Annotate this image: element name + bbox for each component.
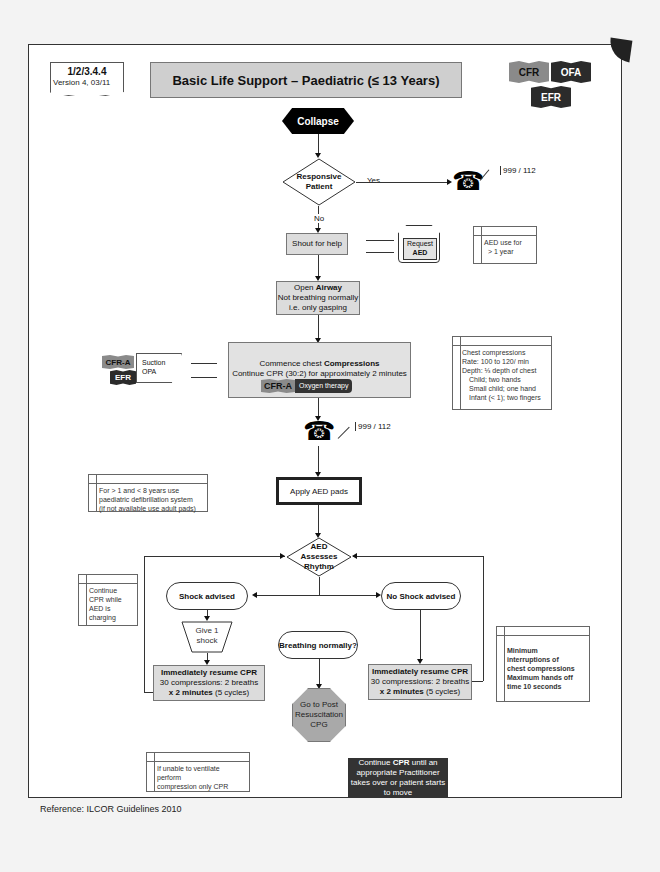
loop-connector-left bbox=[144, 556, 285, 557]
page-curl bbox=[608, 38, 633, 63]
step-text: (5 cycles) bbox=[424, 687, 460, 696]
decision-line: Rhythm bbox=[301, 562, 338, 572]
note-line: If unable to ventilate perform bbox=[157, 764, 245, 782]
connector bbox=[191, 377, 217, 378]
decision-line: AED bbox=[301, 542, 338, 552]
shock-advised-node: Shock advised bbox=[166, 582, 248, 610]
loop-connector-left bbox=[144, 556, 145, 693]
decision-line: Patient bbox=[297, 182, 342, 192]
yes-label: Yes bbox=[367, 176, 380, 185]
flag-cfr-a: CFR-A bbox=[261, 379, 295, 393]
decision-line: Assesses bbox=[301, 552, 338, 562]
step-text: shock bbox=[181, 636, 233, 646]
arrow-icon bbox=[252, 592, 257, 598]
collapse-node: Collapse bbox=[282, 108, 354, 134]
connector bbox=[318, 505, 319, 535]
connector bbox=[318, 134, 319, 154]
note-line: (if not available use adult pads) bbox=[99, 504, 203, 513]
note-text: takes over or patient starts bbox=[351, 778, 445, 788]
note-text: to move bbox=[351, 788, 445, 798]
step-text: Commence chest bbox=[259, 359, 323, 368]
note-line: Maximum hands off bbox=[507, 673, 585, 682]
request-aed-device: Request AED bbox=[398, 225, 440, 263]
step-text: i.e. only gasping bbox=[289, 303, 347, 313]
breathing-normally-decision: Breathing normally? bbox=[278, 631, 358, 659]
note-line: Depth: ⅓ depth of chest bbox=[462, 366, 547, 375]
note-line: Minimum bbox=[507, 646, 585, 655]
note-line: Rate: 100 to 120/ min bbox=[462, 357, 547, 366]
arrow-icon bbox=[352, 553, 357, 559]
connector bbox=[366, 252, 394, 253]
note-line: paediatric defibrillation system bbox=[99, 495, 203, 504]
emergency-number: 999 / 112 bbox=[355, 422, 391, 431]
note-line: AED is bbox=[89, 604, 133, 613]
connector bbox=[318, 446, 319, 474]
note-line: Child; two hands bbox=[462, 375, 547, 384]
oxygen-therapy-tag: CFR-A Oxygen therapy bbox=[261, 379, 352, 393]
ventilation-note: If unable to ventilate perform compressi… bbox=[146, 752, 250, 792]
responsive-patient-decision: ResponsivePatient bbox=[282, 158, 356, 206]
step-text-bold: Immediately resume CPR bbox=[372, 667, 468, 677]
decision-line: Responsive bbox=[297, 172, 342, 182]
note-line: time 10 seconds bbox=[507, 682, 585, 691]
step-text: Not breathing normally bbox=[278, 293, 358, 303]
connector bbox=[366, 240, 394, 241]
emergency-number: 999 / 112 bbox=[500, 166, 536, 175]
loop-connector-right bbox=[483, 556, 484, 681]
branch-connector bbox=[254, 595, 379, 596]
document-tag: 1/2/3.4.4 Version 4, 03/11 bbox=[50, 62, 124, 96]
request-line: AED bbox=[404, 248, 436, 257]
connector bbox=[319, 659, 320, 686]
connector bbox=[318, 398, 319, 418]
loop-connector-left bbox=[144, 692, 153, 693]
step-text-bold: Airway bbox=[316, 283, 342, 292]
note-line: Continue bbox=[89, 586, 133, 595]
continue-cpr-note: Continue CPR until an appropriate Practi… bbox=[348, 758, 448, 798]
aed-assesses-rhythm-decision: AED Assesses Rhythm bbox=[286, 537, 352, 577]
loop-connector-right bbox=[472, 681, 483, 682]
chest-compressions-step: Commence chest Compressions Continue CPR… bbox=[228, 342, 411, 398]
doc-code: 1/2/3.4.4 bbox=[51, 66, 123, 77]
apply-aed-pads-step: Apply AED pads bbox=[276, 477, 362, 505]
note-text: until an bbox=[410, 758, 438, 767]
connector bbox=[356, 182, 448, 183]
loop-connector-right bbox=[353, 556, 483, 557]
open-airway-step: Open Airway Not breathing normally i.e. … bbox=[276, 281, 360, 315]
step-text: CPG bbox=[295, 720, 343, 730]
charging-note: Continue CPR while AED is charging bbox=[78, 574, 138, 626]
flag-ofa: OFA bbox=[551, 61, 591, 83]
note-text: appropriate Practitioner bbox=[351, 768, 445, 778]
page-title: Basic Life Support – Paediatric (≤ 13 Ye… bbox=[150, 62, 462, 98]
request-line: Request bbox=[404, 239, 436, 248]
paediatric-pads-note: For > 1 and < 8 years use paediatric def… bbox=[88, 474, 208, 512]
connector bbox=[420, 610, 421, 661]
reference-text: Reference: ILCOR Guidelines 2010 bbox=[40, 804, 182, 814]
give-shock-step: Give 1 shock bbox=[181, 621, 233, 653]
step-text-bold: Immediately resume CPR bbox=[161, 668, 257, 678]
note-line: chest compressions bbox=[507, 664, 585, 673]
note-line: AED use for bbox=[484, 238, 532, 247]
suction-opa-item: CFR-A EFR Suction OPA bbox=[100, 353, 190, 389]
telephone-icon: ☎ bbox=[303, 418, 335, 444]
note-line: > 1 year bbox=[484, 247, 532, 256]
resume-cpr-right-step: Immediately resume CPR 30 compressions: … bbox=[368, 664, 472, 700]
shout-for-help-step: Shout for help bbox=[286, 233, 348, 255]
flag-cfr: CFR bbox=[509, 61, 549, 83]
step-text: 30 compressions: 2 breaths bbox=[160, 678, 258, 688]
no-shock-advised-node: No Shock advised bbox=[381, 582, 461, 610]
step-text-bold: Compressions bbox=[324, 359, 380, 368]
note-line: CPR while bbox=[89, 595, 133, 604]
step-text-bold: x 2 minutes bbox=[380, 687, 424, 696]
flag-efr: EFR bbox=[531, 86, 571, 108]
note-text: Continue bbox=[358, 758, 392, 767]
step-text: (5 cycles) bbox=[213, 688, 249, 697]
chest-compressions-note: Chest compressions Rate: 100 to 120/ min… bbox=[452, 336, 552, 410]
aed-age-note: AED use for > 1 year bbox=[473, 226, 537, 264]
suction-line: OPA bbox=[142, 367, 181, 376]
note-line: Chest compressions bbox=[462, 348, 547, 357]
step-text: Go to Post bbox=[295, 700, 343, 710]
step-text: Give 1 bbox=[181, 626, 233, 636]
practitioner-flags: CFR OFA EFR bbox=[505, 58, 595, 118]
note-line: compression only CPR bbox=[157, 782, 245, 791]
note-line: Small child; one hand bbox=[462, 384, 547, 393]
